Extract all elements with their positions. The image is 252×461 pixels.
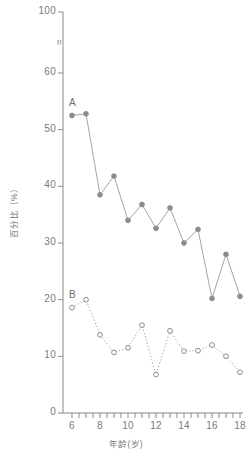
x-axis-ticks: [72, 413, 240, 418]
y-tick-label: 100: [22, 5, 56, 16]
series-line-B: [72, 300, 240, 375]
series-label-B: B: [69, 289, 76, 300]
data-point-A-12: [238, 294, 243, 299]
y-tick-label: 0: [22, 406, 56, 417]
y-tick-label: 50: [22, 123, 56, 134]
data-point-B-12: [238, 370, 243, 375]
data-point-A-5: [140, 202, 145, 207]
y-tick-label: 30: [22, 236, 56, 247]
data-point-A-3: [112, 174, 117, 179]
data-point-B-1: [84, 297, 89, 302]
data-point-B-8: [182, 349, 187, 354]
data-point-A-11: [224, 252, 229, 257]
x-tick-label: 8: [88, 420, 112, 431]
series-label-A: A: [69, 97, 76, 108]
chart-figure: 百分比（%） 年龄(岁) ≈ 0102030405060100681012141…: [0, 0, 252, 461]
data-point-A-2: [98, 192, 103, 197]
data-point-B-9: [196, 348, 201, 353]
x-tick-label: 18: [228, 420, 252, 431]
axis-lines: [63, 12, 243, 413]
x-tick-label: 10: [116, 420, 140, 431]
data-point-B-10: [210, 343, 215, 348]
data-point-A-7: [168, 206, 173, 211]
x-tick-label: 6: [60, 420, 84, 431]
series-data-points: [70, 111, 243, 377]
series-line-A: [72, 114, 240, 299]
data-point-A-9: [196, 227, 201, 232]
y-tick-label: 60: [22, 66, 56, 77]
x-tick-label: 14: [172, 420, 196, 431]
data-point-B-5: [140, 323, 145, 328]
data-point-B-11: [224, 354, 229, 359]
data-point-B-7: [168, 328, 173, 333]
y-axis-break-marker: ≈: [54, 40, 65, 46]
data-point-B-3: [112, 350, 117, 355]
data-point-B-0: [70, 305, 75, 310]
data-point-A-4: [126, 218, 131, 223]
axis-break-symbol: ≈: [54, 40, 65, 46]
y-tick-label: 20: [22, 293, 56, 304]
data-point-A-0: [70, 113, 75, 118]
x-tick-label: 12: [144, 420, 168, 431]
y-axis-ticks: [58, 12, 63, 413]
y-tick-label: 40: [22, 179, 56, 190]
data-point-A-6: [154, 226, 159, 231]
data-point-A-8: [182, 241, 187, 246]
y-tick-label: 10: [22, 349, 56, 360]
x-tick-label: 16: [200, 420, 224, 431]
data-point-A-10: [210, 296, 215, 301]
data-point-B-2: [98, 332, 103, 337]
data-point-B-6: [154, 372, 159, 377]
data-point-A-1: [84, 111, 89, 116]
data-point-B-4: [126, 345, 131, 350]
